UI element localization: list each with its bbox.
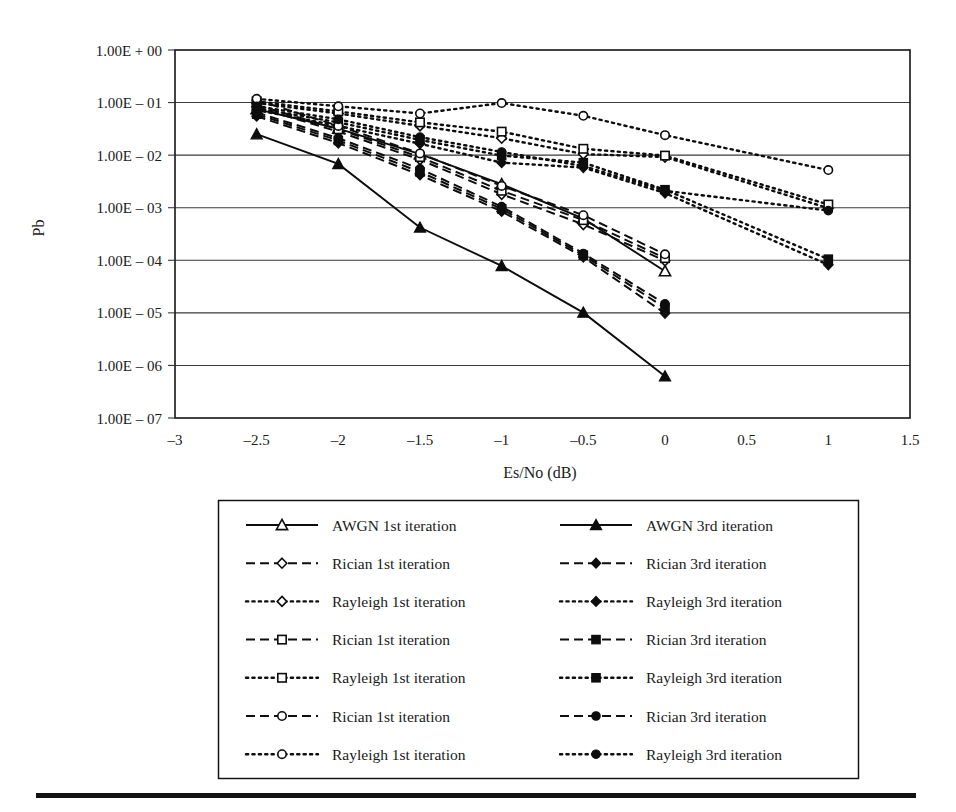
y-axis-ticks: 1.00E + 001.00E – 011.00E – 021.00E – 03… xyxy=(96,43,175,427)
legend-label: AWGN 3rd iteration xyxy=(646,517,773,534)
data-point-circle xyxy=(824,206,832,214)
legend-label: Rayleigh 3rd iteration xyxy=(646,669,782,686)
data-point-circle xyxy=(416,109,424,117)
data-point-diamond xyxy=(277,558,287,568)
series-line xyxy=(257,107,665,261)
data-point-square xyxy=(661,151,669,159)
data-point-circle xyxy=(497,99,505,107)
series-1 xyxy=(251,129,671,381)
data-point-circle xyxy=(579,211,587,219)
legend-item-left-3[interactable]: Rician 1st iteration xyxy=(246,631,450,648)
data-point-circle xyxy=(579,162,587,170)
legend-item-left-5[interactable]: Rician 1st iteration xyxy=(246,708,450,725)
data-point-diamond xyxy=(591,558,601,568)
series-line xyxy=(257,116,665,313)
x-tick-label: 1 xyxy=(825,432,833,448)
data-point-square xyxy=(416,118,424,126)
legend-label: Rician 1st iteration xyxy=(332,631,450,648)
data-point-circle xyxy=(497,202,505,210)
data-point-circle xyxy=(252,102,260,110)
legend-item-right-5[interactable]: Rician 3rd iteration xyxy=(560,708,767,725)
data-point-circle xyxy=(278,750,286,758)
y-tick-label: 1.00E + 00 xyxy=(96,43,162,59)
data-point-triangle xyxy=(659,266,670,276)
figure-container: 1.00E + 001.00E – 011.00E – 021.00E – 03… xyxy=(0,0,956,812)
data-point-circle xyxy=(592,712,600,720)
legend-label: Rician 3rd iteration xyxy=(646,631,767,648)
data-point-square xyxy=(278,674,286,682)
x-tick-label: 0.5 xyxy=(737,432,756,448)
data-point-circle xyxy=(661,300,669,308)
data-point-circle xyxy=(334,115,342,123)
data-point-square xyxy=(497,127,505,135)
data-point-circle xyxy=(579,112,587,120)
x-tick-label: –2 xyxy=(330,432,346,448)
data-point-circle xyxy=(334,102,342,110)
x-tick-label: 0 xyxy=(661,432,669,448)
legend-item-left-4[interactable]: Rayleigh 1st iteration xyxy=(246,669,466,686)
series-7 xyxy=(252,110,669,312)
legend-item-right-0[interactable]: AWGN 3rd iteration xyxy=(560,517,773,534)
legend-label: AWGN 1st iteration xyxy=(332,517,457,534)
data-point-diamond xyxy=(591,596,601,606)
x-tick-label: –3 xyxy=(167,432,183,448)
legend-item-right-3[interactable]: Rician 3rd iteration xyxy=(560,631,767,648)
y-tick-label: 1.00E – 06 xyxy=(97,358,163,374)
legend-label: Rayleigh 1st iteration xyxy=(332,746,466,763)
data-point-circle xyxy=(661,131,669,139)
data-point-circle xyxy=(416,149,424,157)
data-point-circle xyxy=(497,182,505,190)
data-point-triangle xyxy=(251,129,262,139)
data-point-square xyxy=(592,674,600,682)
legend-label: Rayleigh 3rd iteration xyxy=(646,746,782,763)
legend-item-right-2[interactable]: Rayleigh 3rd iteration xyxy=(560,593,782,610)
bottom-divider-rule xyxy=(36,793,916,798)
y-tick-label: 1.00E – 07 xyxy=(97,411,163,427)
data-point-triangle xyxy=(496,260,507,270)
data-point-circle xyxy=(278,712,286,720)
legend-item-right-4[interactable]: Rayleigh 3rd iteration xyxy=(560,669,782,686)
legend-entries-group: AWGN 1st iterationRician 1st iterationRa… xyxy=(246,517,782,763)
legend-item-left-2[interactable]: Rayleigh 1st iteration xyxy=(246,593,466,610)
x-tick-label: –0.5 xyxy=(569,432,596,448)
series-line xyxy=(257,114,665,308)
y-tick-label: 1.00E – 04 xyxy=(97,253,163,269)
legend-item-left-1[interactable]: Rician 1st iteration xyxy=(246,555,450,572)
y-tick-label: 1.00E – 03 xyxy=(97,200,162,216)
x-tick-label: 1.5 xyxy=(901,432,920,448)
data-point-circle xyxy=(497,148,505,156)
data-point-triangle xyxy=(578,307,589,317)
legend-item-left-0[interactable]: AWGN 1st iteration xyxy=(246,517,457,534)
x-axis-ticks: –3–2.5–2–1.5–1–0.500.511.5 xyxy=(167,432,920,448)
data-point-square xyxy=(278,635,286,643)
y-tick-label: 1.00E – 05 xyxy=(97,305,162,321)
series-13 xyxy=(252,102,832,215)
legend-label: Rician 1st iteration xyxy=(332,708,450,725)
data-point-square xyxy=(592,635,600,643)
legend-label: Rician 1st iteration xyxy=(332,555,450,572)
y-tick-label: 1.00E – 01 xyxy=(97,95,162,111)
data-point-circle xyxy=(579,249,587,257)
data-point-circle xyxy=(661,250,669,258)
data-point-square xyxy=(824,255,832,263)
legend-label: Rician 3rd iteration xyxy=(646,708,767,725)
data-point-square xyxy=(579,145,587,153)
x-tick-label: –1.5 xyxy=(406,432,433,448)
ber-performance-chart: 1.00E + 001.00E – 011.00E – 021.00E – 03… xyxy=(0,0,956,812)
legend-item-right-1[interactable]: Rician 3rd iteration xyxy=(560,555,767,572)
legend-item-right-6[interactable]: Rayleigh 3rd iteration xyxy=(560,746,782,763)
data-point-circle xyxy=(334,134,342,142)
y-axis-label: Pb xyxy=(30,220,47,237)
data-point-circle xyxy=(661,187,669,195)
series-3 xyxy=(252,111,670,318)
data-point-circle xyxy=(416,165,424,173)
data-series-group xyxy=(251,95,833,381)
data-point-circle xyxy=(416,133,424,141)
legend-label: Rician 3rd iteration xyxy=(646,555,767,572)
legend-label: Rayleigh 1st iteration xyxy=(332,593,466,610)
legend-item-left-6[interactable]: Rayleigh 1st iteration xyxy=(246,746,466,763)
data-point-diamond xyxy=(277,596,287,606)
data-point-circle xyxy=(824,166,832,174)
x-tick-label: –1 xyxy=(493,432,509,448)
legend-label: Rayleigh 1st iteration xyxy=(332,669,466,686)
